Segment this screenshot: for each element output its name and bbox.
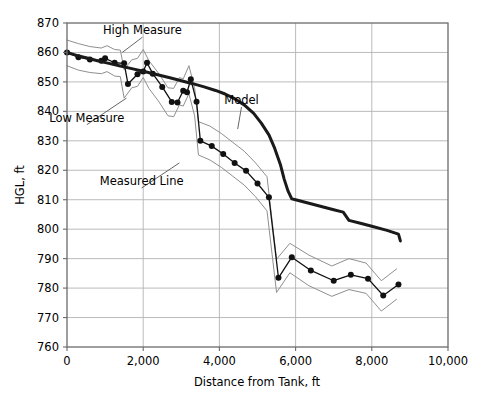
data-point-marker	[395, 282, 401, 288]
y-axis-tick-label: 760	[37, 340, 59, 354]
annotation-label: Model	[224, 93, 259, 107]
y-axis-tick-label: 770	[37, 311, 59, 325]
x-axis-tick-label: 4,000	[203, 354, 236, 368]
y-axis-tick-label: 860	[37, 45, 59, 59]
data-point-marker	[348, 272, 354, 278]
y-axis-tick-label: 820	[37, 163, 59, 177]
data-point-marker	[255, 181, 261, 187]
x-axis-tick-label: 0	[63, 354, 70, 368]
data-point-marker	[125, 81, 131, 87]
y-axis-title: HGL, ft	[13, 165, 27, 205]
data-point-marker	[365, 276, 371, 282]
annotation-label: Low Measure	[49, 111, 124, 125]
data-point-marker	[144, 60, 150, 66]
data-point-marker	[134, 71, 140, 77]
data-point-marker	[308, 267, 314, 273]
data-point-marker	[220, 151, 226, 157]
hgl-distance-chart: 76077078079080081082083084085086087002,0…	[0, 0, 487, 401]
annotation-label: High Measure	[103, 23, 182, 37]
y-axis-tick-label: 800	[37, 222, 59, 236]
y-axis-tick-label: 870	[37, 16, 59, 30]
x-axis-tick-label: 2,000	[127, 354, 160, 368]
data-point-marker	[243, 168, 249, 174]
data-point-marker	[159, 84, 165, 90]
y-axis-tick-label: 850	[37, 75, 59, 89]
y-axis-tick-label: 810	[37, 193, 59, 207]
y-axis-tick-label: 830	[37, 134, 59, 148]
x-axis-tick-label: 10,000	[428, 354, 468, 368]
chart-canvas: 76077078079080081082083084085086087002,0…	[0, 0, 487, 401]
x-axis-title: Distance from Tank, ft	[194, 375, 321, 389]
data-point-marker	[275, 275, 281, 281]
data-point-marker	[169, 99, 175, 105]
x-axis-tick-label: 6,000	[279, 354, 312, 368]
data-point-marker	[331, 278, 337, 284]
data-point-marker	[197, 138, 203, 144]
y-axis-tick-label: 790	[37, 252, 59, 266]
data-point-marker	[194, 99, 200, 105]
data-point-marker	[174, 100, 180, 106]
data-point-marker	[289, 254, 295, 260]
data-point-marker	[232, 160, 238, 166]
data-point-marker	[266, 194, 272, 200]
annotation-label: Measured Line	[100, 174, 184, 188]
data-point-marker	[209, 143, 215, 149]
x-axis-tick-label: 8,000	[355, 354, 388, 368]
y-axis-tick-label: 780	[37, 281, 59, 295]
data-point-marker	[184, 89, 190, 95]
data-point-marker	[380, 292, 386, 298]
